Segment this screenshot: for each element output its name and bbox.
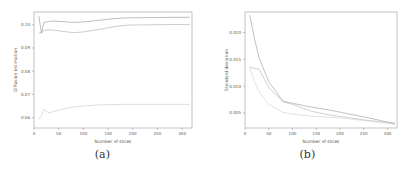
y-axis-title: Diffusion estimation: [13, 48, 18, 92]
x-tick-label: 250: [360, 131, 368, 136]
x-axis-title: Number of slices: [95, 139, 133, 144]
figure-container: 0501001502002503000.060.070.080.090.10Nu…: [0, 0, 410, 173]
x-tick-label: 300: [178, 131, 186, 136]
x-tick-label: 300: [384, 131, 392, 136]
series-line-sd-curve-high: [250, 15, 395, 123]
x-tick-label: 50: [56, 131, 62, 136]
y-tick-label: 0.06: [21, 115, 31, 120]
y-tick-label: 0.08: [21, 69, 31, 74]
panel-a: 0501001502002503000.060.070.080.090.10Nu…: [0, 0, 205, 173]
x-tick-label: 0: [33, 131, 36, 136]
plot-area-b: 0501001502002503000.0050.0100.0150.020Nu…: [205, 0, 410, 148]
y-tick-label: 0.07: [21, 92, 31, 97]
plot-area-a: 0501001502002503000.060.070.080.090.10Nu…: [0, 0, 205, 148]
y-axis-title: Standard deviation: [224, 49, 229, 91]
plot-frame: [245, 12, 397, 128]
panel-a-caption: (a): [0, 148, 205, 161]
series-line-curve-lower: [39, 104, 190, 119]
y-tick-label: 0.09: [21, 45, 31, 50]
series-line-sd-curve-low: [250, 68, 395, 124]
x-tick-label: 150: [312, 131, 320, 136]
series-line-curve-upper: [39, 17, 190, 34]
x-tick-label: 100: [289, 131, 297, 136]
x-tick-label: 250: [154, 131, 162, 136]
panel-b: 0501001502002503000.0050.0100.0150.020Nu…: [205, 0, 410, 173]
x-tick-label: 50: [266, 131, 272, 136]
series-line-sd-curve-mid: [250, 67, 395, 123]
y-tick-label: 0.10: [21, 22, 31, 27]
y-tick-label: 0.020: [229, 30, 241, 35]
panel-b-caption: (b): [205, 148, 410, 161]
x-tick-label: 200: [129, 131, 137, 136]
y-tick-label: 0.015: [229, 57, 241, 62]
x-tick-label: 100: [79, 131, 87, 136]
y-tick-label: 0.010: [229, 84, 241, 89]
y-tick-label: 0.005: [229, 110, 241, 115]
x-axis-title: Number of slices: [303, 139, 341, 144]
series-line-curve-middle: [39, 25, 190, 34]
x-tick-label: 0: [244, 131, 247, 136]
x-tick-label: 200: [336, 131, 344, 136]
x-tick-label: 150: [104, 131, 112, 136]
